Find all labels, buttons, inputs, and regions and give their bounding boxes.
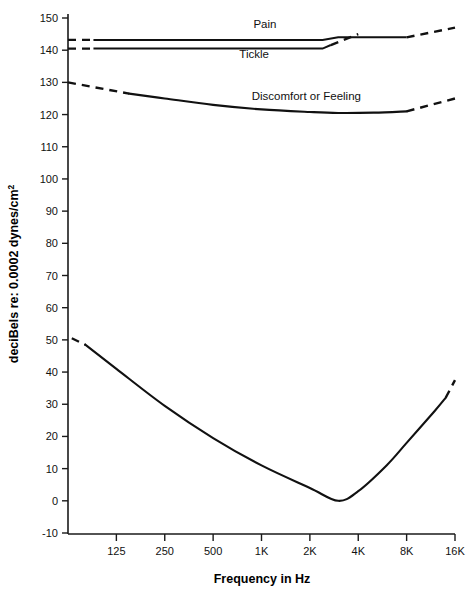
series-label-tickle: Tickle bbox=[239, 48, 269, 60]
y-tick-label: -10 bbox=[42, 527, 58, 539]
series-discomfort-or-feeling-dashed-right bbox=[407, 98, 455, 111]
x-tick-label: 8K bbox=[400, 545, 414, 557]
x-tick-label: 125 bbox=[107, 545, 125, 557]
y-axis-ticks: 1501401301201101009080706050403020100-10 bbox=[40, 12, 68, 539]
y-tick-label: 80 bbox=[46, 237, 58, 249]
y-tick-label: 90 bbox=[46, 205, 58, 217]
series-tickle-dashed-right bbox=[331, 34, 358, 45]
series-threshold-of-hearing-line bbox=[85, 345, 445, 501]
x-tick-label: 16K bbox=[445, 545, 465, 557]
y-tick-label: 60 bbox=[46, 302, 58, 314]
y-tick-label: 70 bbox=[46, 270, 58, 282]
series-discomfort-or-feeling-dashed-left bbox=[68, 82, 129, 93]
x-tick-label: 250 bbox=[156, 545, 174, 557]
series-threshold-of-hearing-dashed-left bbox=[72, 338, 85, 344]
y-tick-label: 120 bbox=[40, 109, 58, 121]
y-tick-label: 20 bbox=[46, 430, 58, 442]
y-axis-title-superscript: 2 bbox=[6, 185, 16, 190]
y-axis-title-group: deciBels re: 0.0002 dynes/cm2 bbox=[6, 185, 21, 364]
y-tick-label: 30 bbox=[46, 398, 58, 410]
y-tick-label: 110 bbox=[40, 141, 58, 153]
y-tick-label: 10 bbox=[46, 463, 58, 475]
series-tickle-line bbox=[93, 45, 330, 49]
y-tick-label: 0 bbox=[52, 495, 58, 507]
audiogram-chart: 1501401301201101009080706050403020100-10… bbox=[0, 0, 467, 597]
x-tick-label: 1K bbox=[255, 545, 269, 557]
x-axis-title: Frequency in Hz bbox=[214, 572, 311, 586]
series-pain-line bbox=[93, 37, 406, 40]
y-tick-label: 50 bbox=[46, 334, 58, 346]
series-threshold-of-hearing-dashed-right bbox=[446, 380, 455, 398]
series-annotations: PainTickleDiscomfort or Feeling bbox=[239, 18, 361, 102]
chart-canvas: 1501401301201101009080706050403020100-10… bbox=[0, 0, 467, 597]
series-pain-dashed-right bbox=[407, 28, 455, 38]
series-label-pain: Pain bbox=[253, 18, 276, 30]
y-tick-label: 40 bbox=[46, 366, 58, 378]
y-axis-title: deciBels re: 0.0002 dynes/cm2 bbox=[6, 185, 21, 364]
series-label-discomfort-or-feeling: Discomfort or Feeling bbox=[252, 90, 361, 102]
y-tick-label: 140 bbox=[40, 44, 58, 56]
y-tick-label: 100 bbox=[40, 173, 58, 185]
x-axis-ticks: 1252505001K2K4K8K16K bbox=[107, 534, 465, 557]
x-tick-label: 500 bbox=[204, 545, 222, 557]
y-tick-label: 130 bbox=[40, 76, 58, 88]
y-tick-label: 150 bbox=[40, 12, 58, 24]
x-tick-label: 2K bbox=[303, 545, 317, 557]
y-axis-title-text: deciBels re: 0.0002 dynes/cm bbox=[7, 190, 21, 364]
x-tick-label: 4K bbox=[352, 545, 366, 557]
